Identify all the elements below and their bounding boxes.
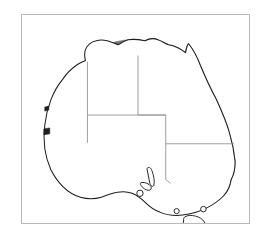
figure-root — [0, 0, 266, 237]
king-island — [174, 209, 179, 214]
tasmania — [183, 215, 206, 223]
kangaroo-island — [137, 190, 143, 196]
australia-map — [22, 15, 249, 223]
flinders-island — [201, 206, 207, 212]
shark-bay-mark — [45, 106, 49, 111]
west-coast-mark — [44, 128, 50, 135]
mainland-coastline — [44, 39, 235, 216]
map-frame — [21, 14, 250, 224]
